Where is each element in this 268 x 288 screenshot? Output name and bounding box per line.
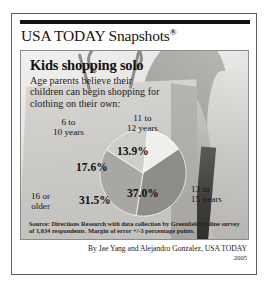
byline-credit: By Jae Yang and Alejandro Gonzalez, USA …	[88, 244, 247, 253]
pie-chart-svg	[99, 129, 187, 217]
slice-value-16-or-older: 31.5%	[79, 194, 111, 206]
slice-value-13-to-15: 37.0%	[127, 187, 159, 199]
slice-label-16-or-older: 16 orolder	[31, 191, 50, 211]
brand-title: USA TODAY Snapshots	[21, 27, 170, 44]
pie-chart	[99, 129, 187, 217]
subtitle-text: Age parents believe their children can b…	[30, 75, 162, 109]
byline-year: 2005	[234, 254, 247, 261]
slice-label-13-to-15: 13 to15 years	[191, 184, 222, 204]
usa-today-snapshot-card: USA TODAY Snapshots® Kids shopping solo …	[11, 13, 257, 275]
infographic-panel: Kids shopping solo Age parents believe t…	[20, 50, 249, 240]
registered-trademark-icon: ®	[170, 27, 177, 37]
slice-label-6-to-10: 6 to10 years	[53, 117, 84, 137]
slice-value-11-to-12: 13.9%	[117, 145, 149, 157]
slice-label-11-to-12: 11 to12 years	[127, 113, 158, 133]
brand-header: USA TODAY Snapshots®	[21, 27, 249, 48]
slice-value-6-to-10: 17.6%	[76, 161, 108, 173]
source-note: Source: Directions Research with data co…	[29, 220, 243, 235]
page-title: Kids shopping solo	[30, 57, 180, 74]
top-rule-divider	[20, 20, 250, 24]
